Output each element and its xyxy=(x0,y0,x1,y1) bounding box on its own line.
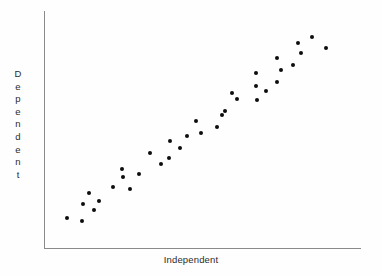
data-point xyxy=(254,84,258,88)
x-axis-title: Independent xyxy=(0,254,382,266)
y-axis-title: Dependent xyxy=(9,68,27,181)
data-point xyxy=(254,71,258,75)
data-point xyxy=(111,185,115,189)
data-point xyxy=(137,172,141,176)
data-point xyxy=(81,202,85,206)
data-point xyxy=(230,91,234,95)
data-point xyxy=(223,109,227,113)
y-axis-title-letter-0: D xyxy=(9,68,27,81)
data-point xyxy=(291,63,295,67)
data-point xyxy=(178,146,182,150)
data-point xyxy=(121,175,125,179)
data-point xyxy=(279,68,283,72)
data-point xyxy=(215,125,219,129)
y-axis-title-letter-6: e xyxy=(9,144,27,157)
data-point xyxy=(310,35,314,39)
data-point xyxy=(220,113,224,117)
data-point xyxy=(148,151,152,155)
data-point xyxy=(159,162,163,166)
data-point xyxy=(194,119,198,123)
y-axis-title-letter-3: e xyxy=(9,106,27,119)
data-point xyxy=(299,51,303,55)
data-point xyxy=(185,134,189,138)
y-axis-title-letter-8: t xyxy=(9,169,27,182)
y-axis-title-letter-7: n xyxy=(9,156,27,169)
data-point xyxy=(120,167,124,171)
data-point xyxy=(235,97,239,101)
scatter-plot-figure: Dependent Independent xyxy=(0,0,382,276)
data-point xyxy=(199,131,203,135)
data-point xyxy=(167,156,171,160)
data-point xyxy=(275,56,279,60)
data-point xyxy=(87,191,91,195)
data-point xyxy=(97,199,101,203)
data-point xyxy=(324,46,328,50)
data-point xyxy=(128,187,132,191)
data-point xyxy=(264,89,268,93)
y-axis-title-letter-5: d xyxy=(9,131,27,144)
plot-area xyxy=(0,0,382,276)
data-point xyxy=(80,219,84,223)
y-axis-title-letter-4: n xyxy=(9,118,27,131)
data-point xyxy=(296,41,300,45)
data-point xyxy=(168,139,172,143)
data-point xyxy=(275,80,279,84)
y-axis-title-letter-1: e xyxy=(9,81,27,94)
y-axis-title-letter-2: p xyxy=(9,93,27,106)
data-point xyxy=(65,216,69,220)
data-point xyxy=(255,98,259,102)
data-point xyxy=(92,208,96,212)
